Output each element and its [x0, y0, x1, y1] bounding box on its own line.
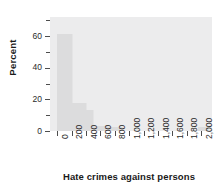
x-axis-tick-label: 600 — [104, 125, 113, 139]
x-axis-tick-label: 1,000 — [133, 118, 142, 139]
x-axis-title: Hate crimes against persons — [40, 171, 218, 182]
histogram-bar — [57, 34, 72, 131]
x-axis-tick-label: 800 — [118, 125, 127, 139]
y-axis-tick — [45, 68, 50, 69]
x-axis-tick — [201, 131, 202, 136]
x-axis-tick — [86, 131, 87, 136]
x-axis-tick — [187, 131, 188, 136]
y-axis-tick — [45, 131, 50, 132]
y-axis-tick — [46, 115, 50, 116]
plot-area — [50, 17, 212, 131]
x-axis-tick-label: 1,200 — [147, 118, 156, 139]
x-axis-tick-label: 1,800 — [190, 118, 199, 139]
y-axis-tick-label: 0 — [16, 127, 42, 136]
x-axis-tick-label: 1,600 — [176, 118, 185, 139]
x-axis-tick — [100, 131, 101, 136]
y-axis-tick-label: 20 — [16, 95, 42, 104]
y-axis-tick — [46, 84, 50, 85]
x-axis-tick — [172, 131, 173, 136]
x-axis-tick — [158, 131, 159, 136]
x-axis-tick — [129, 131, 130, 136]
y-axis-tick — [46, 20, 50, 21]
y-axis-tick — [45, 36, 50, 37]
x-axis-tick-label: 400 — [90, 125, 99, 139]
x-axis-tick — [144, 131, 145, 136]
x-axis-tick — [115, 131, 116, 136]
x-axis-tick — [72, 131, 73, 136]
y-axis-tick-label: 40 — [16, 63, 42, 72]
x-axis-tick — [57, 131, 58, 136]
x-axis-tick-label: 200 — [75, 125, 84, 139]
x-axis-tick-label: 2,000 — [205, 118, 214, 139]
y-axis-tick — [46, 52, 50, 53]
histogram-chart: Percent Hate crimes against persons 0204… — [0, 0, 224, 190]
x-axis-tick-label: 1,400 — [162, 118, 171, 139]
y-axis-tick — [45, 99, 50, 100]
y-axis-tick-label: 60 — [16, 32, 42, 41]
x-axis-tick-label: 0 — [61, 134, 70, 139]
